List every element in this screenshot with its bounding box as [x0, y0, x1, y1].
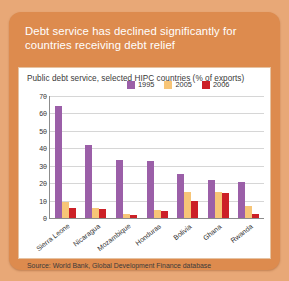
- bar-group: [111, 96, 142, 218]
- bar-2006: [161, 211, 168, 218]
- y-axis-ticks: 010203040506070: [19, 96, 47, 218]
- bar-2005: [215, 192, 222, 218]
- chart-panel: Public debt service, selected HIPC count…: [18, 67, 271, 259]
- y-tick-mark: [44, 201, 47, 202]
- y-tick-mark: [44, 113, 47, 114]
- bar-2006: [191, 201, 198, 218]
- y-tick-mark: [44, 218, 47, 219]
- y-tick-mark: [44, 96, 47, 97]
- x-label-cell: Ghana: [202, 222, 233, 260]
- source-note: Source: World Bank, Global Development F…: [27, 262, 277, 269]
- bar-2006: [252, 214, 259, 218]
- bar-1995: [238, 182, 245, 218]
- bar-2005: [62, 202, 69, 218]
- x-tick-label: Bolivia: [172, 223, 193, 241]
- bar-group: [172, 96, 203, 218]
- x-label-cell: Bolivia: [171, 222, 202, 260]
- bar-2005: [123, 214, 130, 218]
- y-tick-mark: [44, 183, 47, 184]
- bar-2006: [222, 193, 229, 218]
- bar-1995: [85, 145, 92, 218]
- y-tick-mark: [44, 148, 47, 149]
- chart-card: Debt service has declined significantly …: [9, 12, 280, 270]
- x-tick-label: Ghana: [202, 223, 223, 241]
- card-title: Debt service has declined significantly …: [25, 24, 265, 52]
- y-tick-mark: [44, 166, 47, 167]
- x-axis-labels: Sierra LeoneNicaraguaMozambiqueHondurasB…: [49, 222, 263, 260]
- plot-area: 010203040506070 Sierra LeoneNicaraguaMoz…: [19, 88, 272, 260]
- y-tick-mark: [44, 131, 47, 132]
- bar-1995: [177, 174, 184, 218]
- bar-2006: [69, 208, 76, 218]
- bar-2005: [245, 206, 252, 218]
- bar-group: [142, 96, 173, 218]
- bar-1995: [116, 160, 123, 218]
- bar-groups: [50, 96, 264, 218]
- x-tick-label: Sierra Leone: [35, 222, 71, 252]
- bar-1995: [55, 106, 62, 218]
- bar-1995: [147, 161, 154, 219]
- x-tick-label: Rwanda: [229, 223, 254, 244]
- x-label-cell: Honduras: [141, 222, 172, 260]
- x-label-cell: Rwanda: [232, 222, 263, 260]
- bar-2005: [92, 208, 99, 218]
- bar-group: [203, 96, 234, 218]
- bar-group: [233, 96, 264, 218]
- bar-2006: [99, 209, 106, 218]
- bar-1995: [208, 180, 215, 218]
- bar-group: [50, 96, 81, 218]
- plot-canvas: [49, 96, 264, 219]
- bar-2005: [184, 192, 191, 218]
- bar-2005: [154, 210, 161, 218]
- bar-group: [81, 96, 112, 218]
- bar-2006: [130, 215, 137, 218]
